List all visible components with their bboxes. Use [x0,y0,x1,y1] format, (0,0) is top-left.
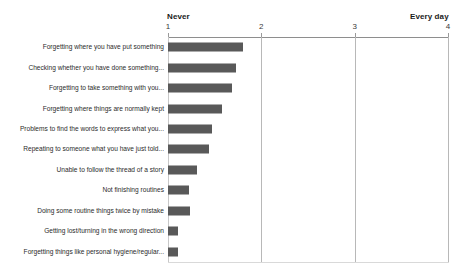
axis-bottom-line [168,262,449,263]
bar-category-label: Unable to follow the thread of a story [57,166,164,174]
bar [168,165,197,174]
bar-category-label: Not finishing routines [102,186,164,194]
bar-rows: Forgetting where you have put somethingC… [0,37,473,262]
bar [168,186,189,195]
bar-row: Not finishing routines [0,180,473,200]
bar-category-label: Forgetting where you have put something [43,43,164,51]
bar-row: Checking whether you have done something… [0,57,473,77]
bar-category-label: Checking whether you have done something… [28,64,164,72]
bar [168,145,209,154]
bar-row: Forgetting to take something with you... [0,78,473,98]
bar-chart: Never Every day 1234 Forgetting where yo… [0,0,473,280]
bar [168,43,243,52]
x-tick-label-1: 1 [158,22,178,31]
bar-category-label: Problems to find the words to express wh… [20,125,164,133]
x-tick-label-3: 3 [345,22,365,31]
x-tick-label-4: 4 [438,22,458,31]
x-tick-label-2: 2 [251,22,271,31]
bar [168,84,232,93]
bar-category-label: Getting lost/turning in the wrong direct… [44,227,164,235]
bar-category-label: Doing some routine things twice by mista… [37,207,164,215]
bar-category-label: Forgetting things like personal hygiene/… [24,248,164,256]
axis-max-label: Every day [410,12,448,21]
bar [168,63,236,72]
bar-category-label: Repeating to someone what you have just … [23,145,164,153]
bar-row: Forgetting where you have put something [0,37,473,57]
bar-row: Forgetting things like personal hygiene/… [0,242,473,262]
bar-category-label: Forgetting where things are normally kep… [43,105,164,113]
bar [168,125,212,134]
bar [168,227,178,236]
bar [168,104,222,113]
bar-row: Getting lost/turning in the wrong direct… [0,221,473,241]
bar [168,206,190,215]
bar-category-label: Forgetting to take something with you... [49,84,164,92]
bar [168,247,178,256]
axis-min-label: Never [167,12,190,21]
bar-row: Problems to find the words to express wh… [0,119,473,139]
bar-row: Doing some routine things twice by mista… [0,201,473,221]
bar-row: Unable to follow the thread of a story [0,160,473,180]
bar-row: Forgetting where things are normally kep… [0,98,473,118]
bar-row: Repeating to someone what you have just … [0,139,473,159]
